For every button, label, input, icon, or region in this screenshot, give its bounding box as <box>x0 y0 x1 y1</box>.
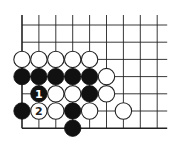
white-stone <box>81 51 97 67</box>
white-stone <box>48 103 64 119</box>
go-board-diagram: 12 <box>0 0 181 147</box>
white-stone: 2 <box>31 103 47 119</box>
move-number-label: 1 <box>35 88 43 101</box>
white-stone <box>48 86 64 102</box>
black-stone: 1 <box>31 86 47 102</box>
white-stone <box>14 51 30 67</box>
white-stone <box>81 103 97 119</box>
black-stone <box>65 68 81 84</box>
white-stone <box>31 51 47 67</box>
black-stone <box>14 68 30 84</box>
white-stone <box>65 51 81 67</box>
white-stone <box>98 68 114 84</box>
black-stone <box>81 68 97 84</box>
black-stone <box>14 103 30 119</box>
black-stone <box>65 120 81 136</box>
stones-layer: 12 <box>14 51 132 136</box>
white-stone <box>115 103 131 119</box>
black-stone <box>31 68 47 84</box>
black-stone <box>48 68 64 84</box>
black-stone <box>81 86 97 102</box>
black-stone <box>65 103 81 119</box>
move-number-label: 2 <box>35 105 43 118</box>
white-stone <box>98 86 114 102</box>
white-stone <box>65 86 81 102</box>
white-stone <box>48 51 64 67</box>
